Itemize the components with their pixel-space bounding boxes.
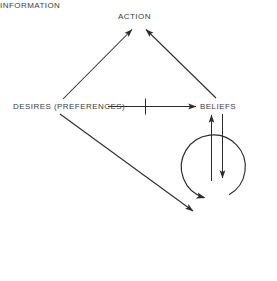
node-label-information: INFORMATION (0, 0, 60, 11)
node-label-desires: DESIRES (PREFERENCES) (13, 101, 125, 112)
diagram-svg (0, 0, 277, 281)
edge-desires-to-world-loop (60, 114, 193, 211)
node-label-beliefs: BELIEFS (200, 101, 236, 112)
edge-beliefs-to-action (146, 30, 216, 99)
world-loop-circle (181, 135, 245, 198)
diagram-canvas: ACTION DESIRES (PREFERENCES) BELIEFS INF… (0, 0, 277, 281)
edge-desires-to-action (63, 30, 132, 100)
node-label-action: ACTION (118, 11, 151, 22)
